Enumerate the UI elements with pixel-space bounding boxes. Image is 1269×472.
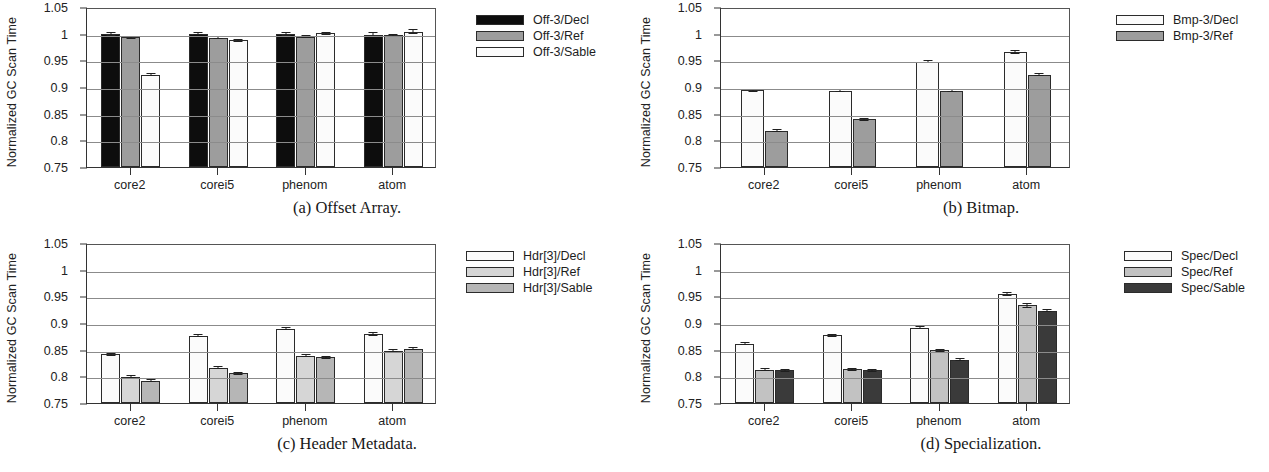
legend-swatch-icon xyxy=(1116,31,1164,41)
y-tick-label: 0.75 xyxy=(678,161,702,175)
legend-label: Spec/Decl xyxy=(1181,249,1238,263)
y-tick-label: 1.05 xyxy=(44,237,68,251)
error-bar xyxy=(1003,292,1012,296)
y-tick-mark xyxy=(80,244,87,245)
legend-label: Hdr[3]/Sable xyxy=(523,281,592,295)
legend-item[interactable]: Hdr[3]/Sable xyxy=(466,280,592,295)
gridline xyxy=(87,325,435,326)
x-tick-label: phenom xyxy=(916,414,961,428)
legend-swatch-icon xyxy=(466,251,514,261)
legend-item[interactable]: Spec/Ref xyxy=(1124,264,1245,279)
gridline xyxy=(87,62,435,63)
bar xyxy=(930,350,949,403)
bar xyxy=(829,91,852,167)
x-tick-label: corei5 xyxy=(834,414,868,428)
gridline xyxy=(721,116,1069,117)
bar xyxy=(364,334,383,403)
y-tick-mark xyxy=(714,244,721,245)
y-axis-label-text: Normalized GC Scan Time xyxy=(639,17,653,167)
legend-label: Spec/Ref xyxy=(1181,265,1232,279)
y-tick-mark xyxy=(80,8,87,9)
bar xyxy=(121,377,140,403)
bar xyxy=(775,370,794,403)
x-tick-row: core2corei5phenomatom xyxy=(720,168,1070,198)
y-tick-label: 1 xyxy=(61,28,68,42)
y-tick-mark xyxy=(714,270,721,271)
y-tick-label: 1.05 xyxy=(678,237,702,251)
gridline xyxy=(87,142,435,143)
bar xyxy=(101,34,120,167)
y-tick-mark xyxy=(80,270,87,271)
legend-item[interactable]: Hdr[3]/Decl xyxy=(466,248,592,263)
bar xyxy=(843,369,862,403)
x-tick-mark xyxy=(939,404,940,411)
y-tick-label: 1 xyxy=(61,264,68,278)
y-tick-mark xyxy=(80,377,87,378)
legend-item[interactable]: Spec/Decl xyxy=(1124,248,1245,263)
x-tick-mark xyxy=(764,404,765,411)
y-tick-mark xyxy=(80,141,87,142)
gridline xyxy=(721,142,1069,143)
bar xyxy=(276,329,295,403)
y-axis-label-text: Normalized GC Scan Time xyxy=(5,17,19,167)
bar xyxy=(1004,52,1027,167)
y-tick-mark xyxy=(714,88,721,89)
legend-item[interactable]: Bmp-3/Ref xyxy=(1116,28,1238,43)
y-tick-column: 1.0510.950.90.850.80.75 xyxy=(22,244,74,404)
gridline xyxy=(721,325,1069,326)
legend-label: Spec/Sable xyxy=(1181,281,1245,295)
y-tick-mark xyxy=(714,34,721,35)
y-tick-column: 1.0510.950.90.850.80.75 xyxy=(656,8,708,168)
y-axis-label-text: Normalized GC Scan Time xyxy=(639,253,653,403)
legend-item[interactable]: Off-3/Decl xyxy=(476,12,596,27)
x-tick-label: corei5 xyxy=(834,178,868,192)
x-tick-row: core2corei5phenomatom xyxy=(720,404,1070,434)
bar xyxy=(189,34,208,167)
error-bar xyxy=(1043,309,1052,312)
y-tick-mark xyxy=(714,324,721,325)
gridline xyxy=(721,89,1069,90)
error-bar xyxy=(772,129,781,132)
bar xyxy=(950,360,969,403)
legend-label: Off-3/Ref xyxy=(533,29,583,43)
gridline xyxy=(721,352,1069,353)
y-axis-label: Normalized GC Scan Time xyxy=(636,244,656,412)
x-tick-mark xyxy=(305,404,306,411)
y-tick-label: 1 xyxy=(695,28,702,42)
error-bar xyxy=(1011,50,1020,54)
x-tick-row: core2corei5phenomatom xyxy=(86,404,436,434)
bar xyxy=(384,35,403,167)
x-tick-mark xyxy=(764,168,765,175)
legend-item[interactable]: Bmp-3/Decl xyxy=(1116,12,1238,27)
error-bar xyxy=(955,358,964,361)
bar xyxy=(940,91,963,167)
legend-swatch-icon xyxy=(1116,15,1164,25)
legend-item[interactable]: Off-3/Ref xyxy=(476,28,596,43)
bar xyxy=(296,37,315,167)
y-tick-label: 0.95 xyxy=(678,290,702,304)
legend-item[interactable]: Hdr[3]/Ref xyxy=(466,264,592,279)
legend-label: Bmp-3/Decl xyxy=(1173,13,1238,27)
y-tick-mark xyxy=(714,61,721,62)
x-tick-mark xyxy=(851,168,852,175)
y-tick-label: 0.8 xyxy=(51,370,68,384)
legend-item[interactable]: Off-3/Sable xyxy=(476,44,596,59)
y-tick-label: 0.75 xyxy=(678,397,702,411)
y-tick-mark xyxy=(714,141,721,142)
gridline xyxy=(721,36,1069,37)
gridline xyxy=(87,378,435,379)
error-bar xyxy=(409,347,418,350)
bar xyxy=(741,90,764,167)
x-tick-label: corei5 xyxy=(200,178,234,192)
legend-label: Off-3/Sable xyxy=(533,45,596,59)
y-tick-mark xyxy=(714,404,721,405)
x-tick-row: core2corei5phenomatom xyxy=(86,168,436,198)
legend-item[interactable]: Spec/Sable xyxy=(1124,280,1245,295)
bar xyxy=(404,32,423,167)
y-tick-mark xyxy=(80,404,87,405)
y-tick-mark xyxy=(80,297,87,298)
error-bar xyxy=(234,372,243,375)
gridline xyxy=(87,36,435,37)
legend-label: Hdr[3]/Decl xyxy=(523,249,586,263)
y-tick-label: 0.85 xyxy=(44,344,68,358)
